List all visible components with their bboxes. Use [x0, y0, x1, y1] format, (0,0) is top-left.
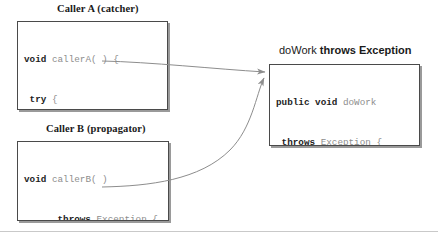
dowork-title-throws: throws Exception	[320, 44, 412, 56]
keyword-void: void	[24, 174, 46, 185]
dowork-code-box: public void doWork throws Exception { ..…	[269, 64, 420, 146]
keyword-try: try	[30, 94, 47, 105]
keyword-void: void	[24, 54, 46, 65]
code-text: Exception {	[91, 214, 158, 221]
code-line: void callerA( ) {	[24, 53, 167, 66]
keyword-public-void: public void	[276, 97, 337, 108]
exception-handling-diagram: Caller A (catcher) void callerA( ) { try…	[0, 0, 438, 239]
caller-b-code-box: void callerB( ) throws Exception { ... d…	[17, 141, 169, 221]
code-text: callerB( )	[46, 174, 107, 185]
code-line: try {	[24, 93, 167, 106]
caller-b-title: Caller B (propagator)	[46, 123, 146, 134]
caller-b-code: void callerB( ) throws Exception { ... d…	[18, 142, 168, 221]
keyword-throws: throws	[24, 214, 91, 221]
keyword-throws: throws	[276, 137, 315, 146]
code-text: callerA( ) {	[46, 54, 119, 65]
code-line: throws Exception {	[276, 136, 419, 146]
code-line: throws Exception {	[24, 213, 168, 221]
code-line: public void doWork	[276, 96, 419, 109]
caller-a-code: void callerA( ) { try { doWork( ); } cat…	[18, 22, 167, 110]
caller-a-code-box: void callerA( ) { try { doWork( ); } cat…	[17, 21, 168, 110]
code-text: doWork	[337, 97, 376, 108]
code-text: Exception {	[315, 137, 382, 146]
dowork-title-name: doWork	[279, 44, 320, 56]
code-text: {	[46, 94, 57, 105]
caller-a-title: Caller A (catcher)	[57, 3, 139, 14]
code-line: void callerB( )	[24, 173, 168, 186]
bottom-divider	[0, 231, 438, 232]
dowork-title: doWork throws Exception	[279, 44, 411, 56]
dowork-code: public void doWork throws Exception { ..…	[270, 65, 419, 146]
